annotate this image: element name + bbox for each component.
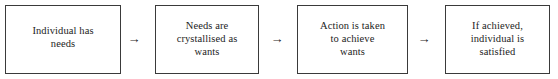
arrow-right-icon: → (127, 32, 141, 45)
flow-node-4: If achieved, individual is satisfied (445, 5, 550, 74)
flow-node-3-line-3: wants (298, 45, 407, 58)
flow-node-1-line-2: needs (6, 37, 120, 50)
flow-node-4-line-3: satisfied (446, 45, 549, 58)
flow-node-4-line-1: If achieved, (446, 19, 549, 32)
flow-node-3-line-1: Action is taken (298, 19, 407, 32)
flow-node-3: Action is taken to achieve wants (297, 5, 408, 74)
flow-node-2-line-1: Needs are (156, 19, 258, 32)
flow-node-4-line-2: individual is (446, 32, 549, 45)
flowchart-diagram: Individual has needs → Needs are crystal… (0, 0, 558, 79)
flow-node-1: Individual has needs (5, 5, 121, 74)
arrow-right-icon: → (270, 32, 284, 45)
arrow-right-icon: → (417, 32, 431, 45)
flow-node-2-line-2: crystallised as (156, 32, 258, 45)
flow-node-2: Needs are crystallised as wants (155, 5, 259, 74)
flow-node-3-line-2: to achieve (298, 32, 407, 45)
flow-node-2-line-3: wants (156, 45, 258, 58)
flow-node-1-line-1: Individual has (6, 24, 120, 37)
